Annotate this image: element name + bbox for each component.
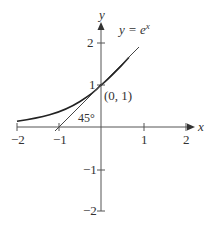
x-tick-label: −1 bbox=[53, 132, 67, 147]
x-tick-label: 2 bbox=[183, 132, 190, 147]
y-axis-label: y bbox=[97, 7, 105, 22]
angle-label: 45° bbox=[78, 111, 95, 125]
x-axis-arrow-icon bbox=[187, 124, 195, 131]
point-label: (0, 1) bbox=[104, 88, 132, 103]
y-tick-label: 1 bbox=[89, 77, 96, 92]
plot-canvas: y x y = ex (0, 1) 45° −2 −1 1 2 2 1 −1 −… bbox=[0, 0, 214, 227]
y-tick-label: −2 bbox=[83, 203, 97, 218]
y-axis-arrow-icon bbox=[98, 22, 105, 30]
exponential-tangent-diagram: y x y = ex (0, 1) 45° −2 −1 1 2 2 1 −1 −… bbox=[0, 0, 214, 227]
x-axis-label: x bbox=[197, 119, 204, 134]
y-tick-label: 2 bbox=[87, 35, 94, 50]
x-tick-label: 1 bbox=[141, 132, 148, 147]
x-tick-label: −2 bbox=[11, 132, 25, 147]
curve-label: y = ex bbox=[117, 21, 150, 37]
y-tick-label: −1 bbox=[83, 162, 97, 177]
